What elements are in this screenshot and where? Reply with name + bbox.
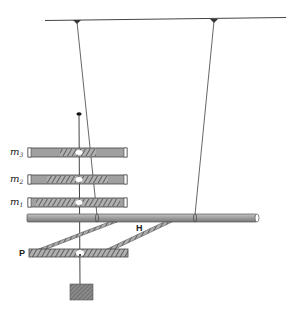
label-m3: m3 bbox=[10, 146, 23, 158]
label-m2: m2 bbox=[10, 173, 23, 185]
mass-bar-m3 bbox=[28, 148, 127, 157]
horizontal-rod-h bbox=[27, 214, 259, 222]
apparatus-diagram: m3 m2 m1 H P bbox=[0, 0, 288, 322]
mass-bar-m2 bbox=[28, 175, 127, 184]
label-p: P bbox=[19, 248, 25, 258]
hanging-weight bbox=[70, 284, 93, 300]
left-diagonal-strut bbox=[36, 222, 117, 250]
label-m1: m1 bbox=[10, 196, 23, 208]
plate-p bbox=[29, 249, 128, 257]
left-suspension-wire bbox=[77, 22, 97, 215]
right-suspension-wire bbox=[195, 21, 214, 215]
top-support-line bbox=[45, 18, 286, 21]
mass-bar-m1 bbox=[28, 198, 127, 207]
label-h: H bbox=[136, 223, 143, 233]
